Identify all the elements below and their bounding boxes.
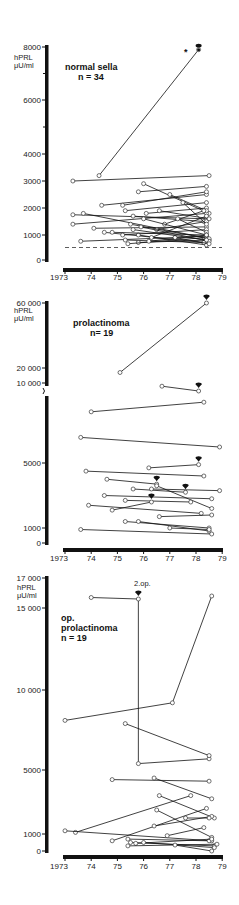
data-point <box>71 222 75 226</box>
patient-line <box>104 496 211 499</box>
data-point <box>207 816 211 820</box>
data-point <box>152 776 156 780</box>
data-point <box>170 701 174 705</box>
data-point <box>204 233 208 237</box>
data-point <box>123 520 127 524</box>
x-tick-label: 78 <box>192 862 201 871</box>
data-point <box>136 762 140 766</box>
data-point <box>168 526 172 530</box>
data-point <box>131 214 135 218</box>
y-tick-label: 0 <box>37 847 42 856</box>
data-point <box>204 222 208 226</box>
x-tick-label: 75 <box>113 554 122 563</box>
data-point <box>181 201 185 205</box>
data-point <box>118 371 122 375</box>
patient-line <box>159 515 211 517</box>
data-point <box>110 839 114 843</box>
data-point <box>160 384 164 388</box>
data-point <box>123 209 127 213</box>
y-tick-label: 1000 <box>23 524 41 533</box>
patient-line <box>86 471 204 476</box>
data-point <box>210 837 214 841</box>
panel-title: prolactinoma <box>61 623 119 633</box>
data-point <box>173 843 177 847</box>
y-tick-label: 3000 <box>23 177 41 186</box>
data-point <box>210 507 214 511</box>
y-tick-label: 10 000 <box>17 379 42 388</box>
data-point <box>189 500 193 504</box>
data-point <box>136 597 140 601</box>
x-tick-label: 79 <box>218 862 227 871</box>
data-point <box>79 435 83 439</box>
data-point <box>147 466 151 470</box>
data-point <box>71 179 75 183</box>
data-point <box>210 594 214 598</box>
patient-line <box>157 810 212 837</box>
x-tick-label: 76 <box>139 554 148 563</box>
patient-line <box>107 479 157 484</box>
data-point <box>207 754 211 758</box>
y-axis <box>45 301 49 386</box>
data-point <box>152 824 156 828</box>
x-tick-label: 78 <box>192 273 201 282</box>
y-tick-label: 4000 <box>23 150 41 159</box>
y-axis <box>45 576 49 853</box>
y-tick-label: 20 000 <box>17 364 42 373</box>
patient-line <box>91 402 204 412</box>
y-tick-label: 6000 <box>23 96 41 105</box>
data-point <box>157 209 161 213</box>
data-point <box>89 596 93 600</box>
data-point <box>89 410 93 414</box>
data-point <box>204 806 208 810</box>
data-point <box>149 236 153 240</box>
panel-normal-sella: hPRL μU/ml normal sella n = 34 * <box>14 47 188 82</box>
x-tick-label: 1973 <box>50 862 68 871</box>
data-point <box>110 230 114 234</box>
x-tick-label: 74 <box>87 862 96 871</box>
patient-line <box>112 808 206 840</box>
panel-n: n= 19 <box>90 328 113 338</box>
x-axis-bar <box>63 268 223 272</box>
patient-line <box>162 386 199 391</box>
data-point <box>168 193 172 197</box>
data-point <box>142 841 146 845</box>
data-point <box>131 228 135 232</box>
data-point <box>102 230 106 234</box>
patient-line <box>138 186 206 191</box>
data-point <box>184 490 188 494</box>
data-point <box>97 174 101 178</box>
y-tick-label: 0 <box>37 539 42 548</box>
data-point <box>155 808 159 812</box>
data-point <box>197 389 201 393</box>
data-point <box>142 217 146 221</box>
unit-label-uu-ml: μU/ml <box>14 61 34 70</box>
x-tick-label: 77 <box>165 554 174 563</box>
panel-prolactinoma: hPRL μU/ml prolactinoma n= 19 <box>14 306 131 338</box>
data-point <box>204 238 208 242</box>
panel-n: n = 34 <box>78 72 104 82</box>
data-point <box>126 242 130 246</box>
data-point <box>202 209 206 213</box>
patient-line <box>73 176 209 181</box>
data-point <box>79 528 83 532</box>
data-point <box>136 233 140 237</box>
data-point <box>110 778 114 782</box>
data-point <box>207 528 211 532</box>
data-point <box>149 487 153 491</box>
data-point <box>134 841 138 845</box>
data-point <box>184 816 188 820</box>
x-tick-label: 74 <box>87 554 96 563</box>
patient-line <box>138 522 209 532</box>
patient-line <box>120 303 206 373</box>
x-tick-label: 1973 <box>50 273 68 282</box>
patient-line <box>125 724 209 756</box>
data-point <box>199 511 203 515</box>
data-point <box>139 225 143 229</box>
y-tick-label: 15 000 <box>17 604 42 613</box>
y-tick-label: 2000 <box>23 204 41 213</box>
data-point <box>202 826 206 830</box>
data-point <box>210 497 214 501</box>
asterisk-annotation: * <box>184 47 188 57</box>
data-point <box>136 520 140 524</box>
second-op-annotation: 2.op. <box>134 579 151 588</box>
